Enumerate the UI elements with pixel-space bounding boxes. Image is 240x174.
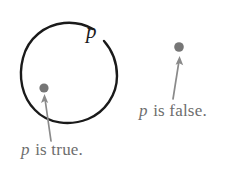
point-outside-region xyxy=(174,42,184,52)
caption-true-text: is true. xyxy=(31,140,83,159)
caption-p-is-false: p is false. xyxy=(139,101,207,121)
arrow-to-outside-point xyxy=(173,56,183,99)
caption-false-variable: p xyxy=(139,101,149,120)
caption-false-text: is false. xyxy=(149,101,207,120)
point-inside-region xyxy=(39,83,48,92)
caption-true-variable: p xyxy=(21,140,31,159)
proposition-truth-set-diagram: p p is true. p is false. xyxy=(0,0,240,174)
set-boundary-circle xyxy=(21,23,117,123)
set-label-p: p xyxy=(86,19,97,44)
caption-p-is-true: p is true. xyxy=(21,140,83,160)
